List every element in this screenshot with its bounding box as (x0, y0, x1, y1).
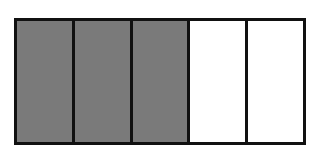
fraction-part-3-shaded (133, 21, 191, 142)
fraction-part-5-unshaded (248, 21, 303, 142)
fraction-part-2-shaded (75, 21, 133, 142)
fraction-bar (14, 18, 306, 145)
fraction-part-4-unshaded (190, 21, 248, 142)
fraction-part-1-shaded (17, 21, 75, 142)
